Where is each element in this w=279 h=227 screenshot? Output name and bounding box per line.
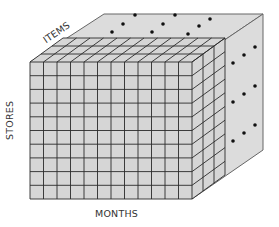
top-ellipsis-dot (208, 17, 212, 21)
right-ellipsis-dot (231, 100, 235, 104)
grid-slab (30, 38, 225, 199)
top-ellipsis-dot (150, 30, 154, 34)
top-ellipsis-dot (173, 13, 177, 17)
right-ellipsis-dot (231, 61, 235, 65)
top-ellipsis-dot (161, 22, 165, 26)
stores-axis-label: STORES (4, 101, 15, 140)
right-ellipsis-dot (242, 131, 246, 135)
top-ellipsis-dot (186, 32, 190, 36)
right-ellipsis-dot (231, 139, 235, 143)
right-ellipsis-dot (253, 45, 257, 49)
top-ellipsis-dot (197, 24, 201, 28)
top-ellipsis-dot (110, 30, 114, 34)
right-ellipsis-dot (242, 53, 246, 57)
right-ellipsis-dot (253, 123, 257, 127)
top-ellipsis-dot (121, 22, 125, 26)
top-ellipsis-dot (133, 13, 137, 17)
right-ellipsis-dot (253, 84, 257, 88)
months-axis-label: MONTHS (95, 208, 138, 219)
right-ellipsis-dot (242, 92, 246, 96)
